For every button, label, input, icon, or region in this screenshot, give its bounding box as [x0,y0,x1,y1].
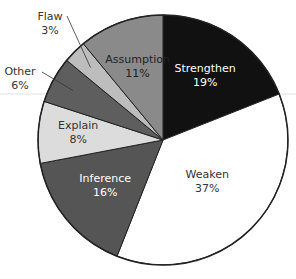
slice-label-inference: Inference [79,172,131,185]
slice-value-other: 6% [11,79,28,92]
slice-label-weaken: Weaken [185,168,228,181]
slice-value-weaken: 37% [195,182,219,195]
slice-value-assumption: 11% [125,67,149,80]
slice-value-strengthen: 19% [193,76,217,89]
slice-label-flaw: Flaw [37,10,62,23]
slice-label-strengthen: Strengthen [174,62,235,75]
slice-label-explain: Explain [58,119,98,132]
slice-value-inference: 16% [93,186,117,199]
pie-chart: Strengthen19%Weaken37%Inference16%Explai… [0,0,296,279]
slice-label-other: Other [4,65,36,78]
slice-value-flaw: 3% [41,24,58,37]
slice-label-assumption: Assumption [105,53,170,66]
slice-value-explain: 8% [69,133,86,146]
